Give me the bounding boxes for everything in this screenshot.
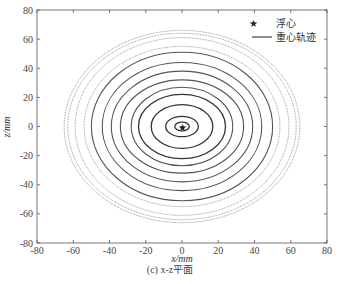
x-tick-label: -20	[139, 245, 152, 256]
legend-label-buoyancy: 浮心	[276, 18, 296, 29]
x-tick-label: 80	[322, 245, 332, 256]
x-tick-label: 60	[286, 245, 296, 256]
legend-label-trajectory: 重心轨迹	[276, 31, 316, 43]
y-tick-label: 60	[23, 34, 33, 45]
figure-caption: (c) x-z平面	[0, 261, 340, 276]
y-tick-label: -80	[20, 238, 33, 249]
y-tick-label: 40	[23, 63, 33, 74]
x-tick-label: -40	[103, 245, 116, 256]
y-tick-label: 80	[23, 5, 33, 16]
y-tick-label: 0	[28, 121, 33, 132]
legend: ★ 浮心 重心轨迹	[249, 18, 317, 43]
buoyancy-center-star-icon: ★	[178, 122, 187, 133]
y-axis-label: z/mm	[1, 116, 12, 138]
y-tick-label: -40	[20, 179, 33, 190]
x-tick-label: 20	[213, 245, 223, 256]
y-tick-label: -20	[20, 150, 33, 161]
x-tick-label: -60	[67, 245, 80, 256]
x-tick-label: 40	[250, 245, 260, 256]
chart: -80-60-40-20020406080-80-60-40-200204060…	[0, 0, 340, 284]
y-tick-label: -60	[20, 208, 33, 219]
y-tick-label: 20	[23, 92, 33, 103]
legend-star-icon: ★	[249, 18, 258, 29]
